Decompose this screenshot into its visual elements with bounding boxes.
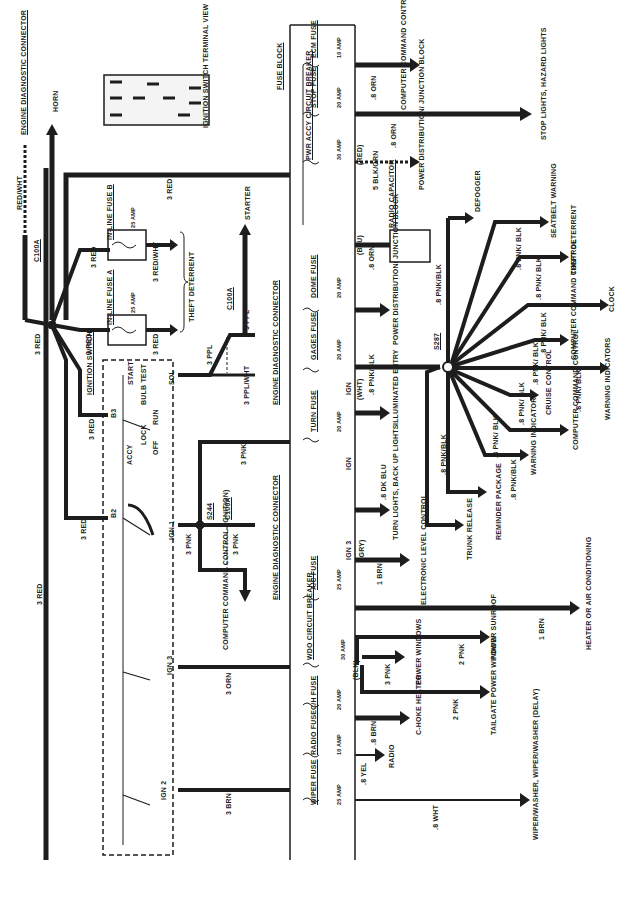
inline-fuse-a-rating: 25 AMP [130,292,137,313]
b3-wire-label: 3 RED [88,418,96,440]
fuse-b-out-wire: 3 RED/WHT [152,242,160,282]
top-red-wire-label: 3 RED [166,178,174,200]
bulb-test-pos: BULB TEST [140,364,148,405]
fuse-a-out-wire: 3 RED [152,333,160,355]
gages-rating: 20 AMP [336,339,343,360]
s287-label: S287 [433,333,441,350]
ignition-switch-label: IGNITION SWITCH [86,331,94,395]
horn-label: HORN [52,91,60,112]
wdo-color: (BLK) [352,660,360,680]
ecm-wire: .8 ORN [370,75,378,100]
ch-wire: .8 BRN [370,721,378,745]
gages-fuse-label: GAGES FUSE [310,312,318,360]
tailgate-dest: TAILGATE POWER WINDOW [490,636,498,735]
wire-warning-indicators: .8 PNK/ BLK [532,342,540,385]
dest-cruise: CRUISE CONTROL [545,349,553,415]
run-pos: RUN [152,409,160,425]
ign1-terminal: IGN 1 [168,521,176,540]
ecm-rating: 10 AMP [336,37,343,58]
wiper-dest: WIPER/WASHER, WIPER/WASHER (DELAY) [532,688,540,840]
diag-connector-lower: ENGINE DIAGNOSTIC CONNECTOR [272,475,280,600]
ch-rating: 20 AMP [336,689,343,710]
ac-rating: 25 AMP [336,569,343,590]
gages-ign: IGN [345,382,353,395]
stop-rating: 20 AMP [336,87,343,108]
inline-fuse-b-label: IN-LINE FUSE B [106,184,114,240]
ppl-wire-label: 3 PPL [206,345,214,365]
wiper-fuse-label: WIPER FUSE [310,759,318,805]
main-red-wire-label-2: 3 RED [36,583,44,605]
ign3-terminal: IGN 3 [166,656,174,675]
s287-feed-wire: .8 PNK/BLK [435,264,443,305]
b3-terminal: B3 [110,409,118,418]
sol-terminal: SOL [168,370,176,385]
b2-terminal: B2 [110,509,118,518]
red-wht-wire-label: RED/WHT [16,176,24,210]
wire-theft: .8 PNK/ BLK [535,257,543,300]
fuse-block-label: FUSE BLOCK [276,43,284,91]
ac-dest: ELECTRONIC LEVEL CONTROL [420,494,428,605]
ac-wire: 1 BRN [376,563,384,585]
dest-clock: CLOCK [608,286,616,312]
wire-seatbelt: .8 PNK/ BLK [515,227,523,270]
dome-wire: .8 ORN [368,245,376,270]
heater-ac-wire: 1 BRN [538,618,546,640]
dest-trunk: TRUNK RELEASE [466,498,474,560]
pnk-wire-1: 3 PNK [185,533,193,555]
dome-fuse-label: DOME FUSE [310,255,318,298]
ch-fuse-label: C/H FUSE [310,676,318,710]
ppl-wire-label-2: 3 PPL [243,310,251,330]
wiper-rating: 25 AMP [336,784,343,805]
inline-fuse-a-label: IN-LINE FUSE A [106,270,114,325]
radio-wire: .8 YEL [360,763,368,785]
pnk-wire-2: 3 PNK [232,533,240,555]
pwr-accy-color: (RED) [356,145,364,165]
ign2-brn-wire: 3 BRN [225,793,233,815]
dome-color: (BLU) [356,235,364,255]
radio-dest: RADIO [388,744,396,768]
dest-warning-indicator: WARNING INDICATOR [530,398,538,475]
turn-dest: TURN LIGHTS, BACK UP LIGHTS [392,424,400,540]
radio-rating: 10 AMP [336,734,343,755]
inline-fuse-b-rating: 25 AMP [130,207,137,228]
c100a-label: C100A [33,239,41,262]
gages-color: (WHT) [356,378,364,400]
s244-label: S244 [206,503,214,520]
starter-label: STARTER [244,186,252,220]
theft-deterrent-label: THEFT DETERRENT [188,252,196,322]
wire-warning-indicator: .8 PNK/ BLK [492,415,500,458]
windows-wire: 3 PNK [384,663,392,685]
ch-dest: C-HOKE HEATER [415,675,423,735]
dest-warning-indicators: WARNING INDICATORS [604,338,612,420]
diag-connector-upper: ENGINE DIAGNOSTIC CONNECTOR [272,280,280,405]
ign3-orn-wire: 3 ORN [225,673,233,695]
main-red-wire-label: 3 RED [34,333,42,355]
turn-wire: .8 DK BLU [380,464,388,500]
sunroof-wire: 2 PNK [458,643,466,665]
wiper-wire: .8 WHT [432,805,440,830]
off-pos: OFF [152,440,160,455]
fuse-block-feed-wire: 3 PNK [240,443,248,465]
terminal-view-label: IGNITION SWITCH TERMINAL VIEW [202,4,210,128]
wire-ccc-2: .8 PNK/ BLK [518,382,526,425]
ac-gry: (GRY) [358,539,366,560]
stop-dest: STOP LIGHTS, HAZARD LIGHTS [540,27,548,140]
dest-defogger: DEFOGGER [474,170,482,212]
pwr-accy-dest: POWER DISTRIBUTION/ JUNCTION BLOCK [418,39,426,190]
b2-wire-label: 3 RED [80,518,88,540]
c100a-starter: C100A [226,287,234,310]
dome-dest: POWER DISTRIBUTION/ JUNCTION BLOCK [392,194,400,345]
turn-fuse-label: TURN FUSE [310,390,318,432]
diag-connector-label: ENGINE DIAGNOSTIC CONNECTOR [20,10,28,135]
wire-ccc-1: .8 PNK/ BLK [540,312,548,355]
ign2-terminal: IGN 2 [160,781,168,800]
dest-seatbelt: SEATBELT WARNING [550,163,558,238]
wdo-cb-label: WDO CIRCUIT BREAKER [306,572,314,660]
start-pos: START [127,361,135,385]
ac-ign3: IGN 3 [345,541,353,560]
heater-ac-dest: HEATER OR AIR CONDITIONING [585,537,593,650]
wire-cruise: .8 PNK/ BLK [575,369,583,412]
gages-wire: .8 PNK/BLK [368,354,376,395]
pwr-accy-label: PWR ACCY CIRCUIT BREAKER [305,51,313,160]
stop-wire: .8 ORN [390,123,398,148]
